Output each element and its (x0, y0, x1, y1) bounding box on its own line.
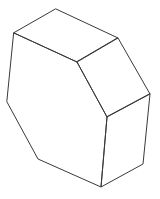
solid-drawing (0, 0, 160, 199)
upper-right-face (77, 38, 150, 117)
diagram-canvas: Isometric line drawing of a hexagonal-pr… (0, 0, 160, 199)
top-face (14, 9, 118, 62)
right-face (101, 94, 150, 187)
front-face (7, 33, 107, 187)
